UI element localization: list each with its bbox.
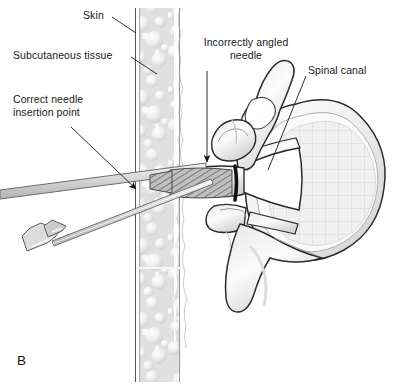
label-incorrectly-angled-needle: Incorrectly angled needle <box>190 36 302 62</box>
label-spinal-canal: Spinal canal <box>308 64 366 77</box>
label-correct-needle-insertion-point: Correct needle insertion point <box>13 93 83 119</box>
label-subcutaneous-tissue: Subcutaneous tissue <box>13 49 112 62</box>
panel-letter: B <box>17 354 26 367</box>
needle-incorrect-hatched-segment-2 <box>150 171 172 193</box>
needle-tip-bone-contact <box>235 166 237 200</box>
label-skin: Skin <box>83 9 104 22</box>
